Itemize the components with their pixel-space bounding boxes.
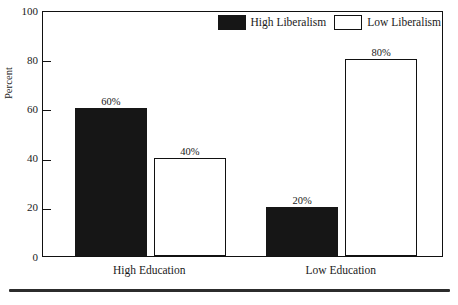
legend-swatch-icon: [218, 15, 246, 30]
y-axis-tick-mark: [43, 209, 51, 210]
bar-chart-figure: Percent 020406080100 High LiberalismLow …: [0, 0, 458, 305]
chart-legend: High LiberalismLow Liberalism: [210, 15, 441, 30]
y-axis-tick-label: 60: [12, 103, 38, 116]
legend-swatch-icon: [334, 15, 362, 30]
y-axis-tick-label: 0: [12, 251, 38, 264]
y-axis-tick-label: 80: [12, 54, 38, 67]
bar-value-label: 20%: [266, 195, 338, 207]
bar-high-liberalism-low-education[interactable]: [266, 207, 338, 256]
y-axis-tick-label: 20: [12, 201, 38, 214]
y-axis-tick-mark: [43, 110, 51, 111]
bar-low-liberalism-low-education[interactable]: [345, 59, 417, 256]
y-axis-tick-mark: [43, 160, 51, 161]
legend-label: High Liberalism: [251, 15, 327, 30]
bar-value-label: 60%: [75, 96, 147, 108]
bar-value-label: 80%: [345, 47, 417, 59]
x-axis-label-high-education: High Education: [69, 262, 229, 278]
bottom-divider-rule: [9, 289, 450, 292]
legend-entry-low-liberalism[interactable]: Low Liberalism: [334, 15, 441, 30]
bar-low-liberalism-high-education[interactable]: [154, 158, 226, 256]
x-axis-label-low-education: Low Education: [261, 262, 421, 278]
bar-value-label: 40%: [154, 146, 226, 158]
y-axis-tick-label: 100: [12, 5, 38, 18]
plot-area: High LiberalismLow Liberalism 60%40%20%8…: [42, 11, 443, 257]
y-axis-tick-mark: [43, 61, 51, 62]
legend-label: Low Liberalism: [367, 15, 441, 30]
y-axis-tick-labels: 020406080100: [8, 0, 38, 305]
y-axis-tick-label: 40: [12, 152, 38, 165]
bar-high-liberalism-high-education[interactable]: [75, 108, 147, 256]
legend-entry-high-liberalism[interactable]: High Liberalism: [218, 15, 327, 30]
